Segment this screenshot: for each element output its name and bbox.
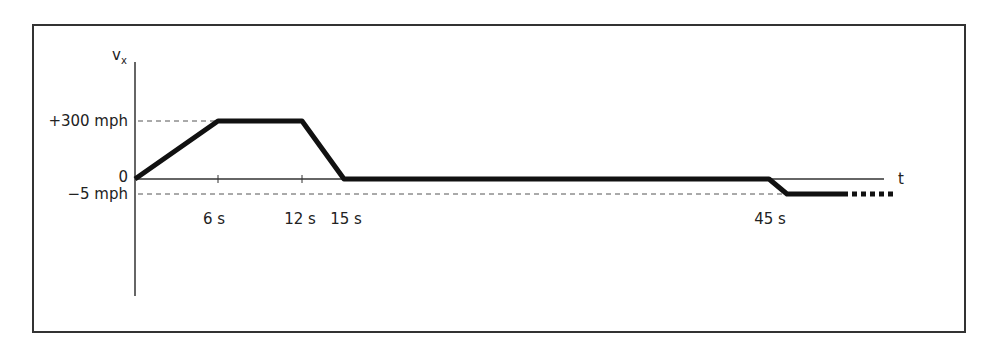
velocity-time-graph: vx t +300 mph 0 −5 mph 6 s 12 s 15 s 45 … [0,0,992,354]
x-axis-label: t [898,170,904,188]
y-tick-label-0: 0 [118,168,128,186]
y-tick-label-neg5: −5 mph [67,185,128,203]
x-tick-label-12s: 12 s [284,210,316,228]
x-tick-label-6s: 6 s [203,210,225,228]
y-tick-label-300: +300 mph [48,112,128,130]
velocity-curve [135,121,848,194]
y-axis-label: vx [112,46,127,66]
x-tick-label-45s: 45 s [754,210,786,228]
x-tick-label-15s: 15 s [330,210,362,228]
